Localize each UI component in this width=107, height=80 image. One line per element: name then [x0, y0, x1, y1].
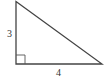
triangle-diagram: 3 4: [0, 0, 107, 80]
right-triangle: [16, 2, 102, 65]
vertical-leg-label: 3: [7, 28, 12, 39]
horizontal-leg-label: 4: [56, 67, 61, 78]
right-angle-marker: [16, 55, 25, 64]
